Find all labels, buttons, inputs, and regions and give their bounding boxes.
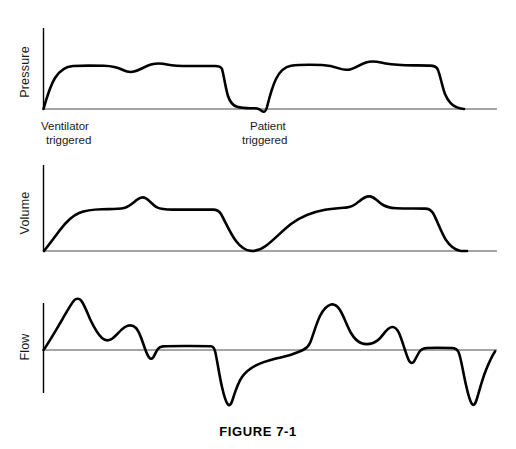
ventilator-triggered-line2: triggered (46, 134, 91, 146)
patient-triggered-line2: triggered (242, 134, 287, 146)
pressure-panel (43, 28, 497, 112)
figure-caption: FIGURE 7-1 (219, 424, 297, 439)
waveform-figure: Pressure Ventilator triggered Patient tr… (0, 0, 516, 449)
flow-waveform (44, 299, 496, 405)
flow-axis-label: Flow (18, 333, 32, 361)
patient-triggered-line1: Patient (250, 120, 287, 132)
volume-axis-label: Volume (18, 192, 32, 235)
pressure-waveform (44, 61, 465, 111)
volume-panel (43, 165, 497, 251)
patient-triggered-annotation: Patient triggered (242, 120, 287, 146)
volume-waveform (44, 196, 467, 251)
ventilator-triggered-line1: Ventilator (41, 120, 89, 132)
ventilator-triggered-annotation: Ventilator triggered (41, 120, 91, 146)
figure-container: Pressure Ventilator triggered Patient tr… (0, 0, 516, 449)
flow-panel (43, 299, 497, 405)
pressure-axis-label: Pressure (18, 46, 32, 98)
